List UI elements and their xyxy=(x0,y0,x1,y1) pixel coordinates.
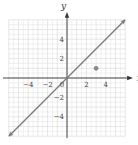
x-tick-label: 4 xyxy=(104,81,109,89)
x-tick-label: 2 xyxy=(84,81,88,89)
x-tick-label: −4 xyxy=(23,81,34,89)
x-axis-arrow-icon xyxy=(127,76,133,80)
tick-labels: xy−4−202442−2−4 xyxy=(23,1,138,121)
y-tick-label: −2 xyxy=(54,94,64,102)
y-axis-arrow-icon xyxy=(65,12,69,18)
y-axis-label: y xyxy=(60,1,67,11)
x-tick-label: 0 xyxy=(60,81,64,89)
x-tick-label: −2 xyxy=(42,81,52,89)
x-axis-label: x xyxy=(137,73,138,83)
coordinate-plane: xy−4−202442−2−4 xyxy=(0,0,138,145)
y-tick-label: 4 xyxy=(60,36,65,44)
y-tick-label: −4 xyxy=(54,113,65,121)
y-tick-label: 2 xyxy=(60,55,64,63)
data-point xyxy=(94,66,99,71)
